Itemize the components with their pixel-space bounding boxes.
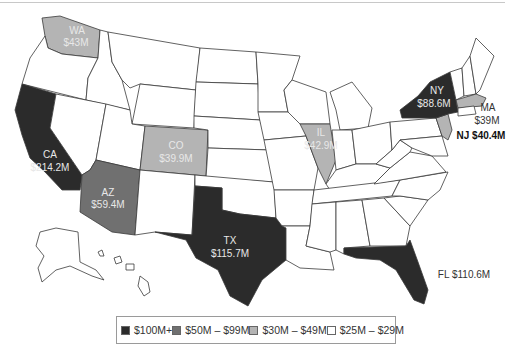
state-sd[interactable] — [194, 82, 260, 120]
label-ca-abbr: CA — [43, 149, 57, 160]
state-ak[interactable] — [36, 228, 104, 282]
label-il-abbr: IL — [317, 127, 326, 138]
legend-label: $25M – $29M — [340, 324, 404, 336]
state-hi-4[interactable] — [98, 250, 104, 256]
legend-item-30m-49m: $30M – $49M — [249, 324, 326, 336]
label-co-abbr: CO — [169, 140, 184, 151]
label-ma-value: $39M — [474, 115, 499, 126]
state-hi-3[interactable] — [138, 276, 150, 296]
label-co-value: $39.9M — [159, 153, 192, 164]
label-wa-value: $43M — [63, 37, 88, 48]
state-ar[interactable] — [274, 190, 314, 226]
label-wa-abbr: WA — [69, 25, 85, 36]
label-ny-abbr: NY — [430, 85, 444, 96]
label-az-abbr: AZ — [102, 187, 115, 198]
label-ma-abbr: MA — [481, 102, 496, 113]
label-az-value: $59.4M — [91, 199, 124, 210]
legend-swatch-medium — [172, 326, 181, 335]
label-il-value: $42.9M — [304, 140, 337, 151]
state-hi-2[interactable] — [126, 264, 134, 270]
state-ct[interactable] — [458, 106, 476, 116]
state-nd[interactable] — [196, 48, 258, 84]
state-wy[interactable] — [132, 84, 196, 128]
state-ny[interactable] — [400, 72, 458, 118]
legend-item-50m-99m: $50M – $99M — [172, 324, 249, 336]
state-co[interactable] — [140, 126, 208, 176]
state-nm[interactable] — [135, 170, 195, 235]
label-nj: NJ $40.4M — [457, 130, 506, 141]
legend-label: $30M – $49M — [262, 324, 326, 336]
state-hi-1[interactable] — [114, 256, 122, 264]
state-mi[interactable] — [330, 82, 372, 130]
legend-item-25m-29m: $25M – $29M — [327, 324, 404, 336]
legend-swatch-white — [327, 326, 336, 335]
label-fl: FL $110.6M — [438, 269, 490, 280]
label-tx-abbr: TX — [224, 235, 237, 246]
us-map: WA $43M CA $214.2M AZ $59.4M CO $39.9M T… — [0, 0, 515, 315]
state-fl[interactable] — [344, 240, 428, 304]
label-ca-value: $214.2M — [31, 162, 70, 173]
legend-item-100m-plus: $100M+ — [121, 324, 172, 336]
legend: $100M+ $50M – $99M $30M – $49M $25M – $2… — [116, 316, 396, 344]
label-ny-value: $88.6M — [417, 98, 450, 109]
legend-label: $50M – $99M — [185, 324, 249, 336]
legend-swatch-dark — [121, 326, 130, 335]
legend-swatch-light — [249, 326, 258, 335]
label-tx-value: $115.7M — [211, 248, 249, 259]
legend-label: $100M+ — [134, 324, 172, 336]
